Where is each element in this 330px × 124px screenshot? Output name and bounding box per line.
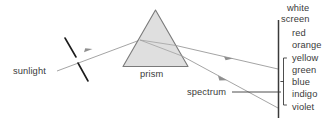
sunlight-label: sunlight: [13, 66, 46, 77]
slit-lower-blade: [78, 63, 88, 81]
exit-ray-upper-arrowhead: [224, 57, 233, 61]
white-screen-label-line1: white: [287, 3, 309, 14]
spectrum-color-list: red orange yellow green blue indigo viol…: [292, 27, 322, 113]
spectrum-color-yellow: yellow: [292, 52, 322, 64]
exit-ray-upper: [176, 46, 278, 70]
incoming-ray-arrowhead: [84, 48, 93, 52]
white-screen-label-line2: screen: [281, 14, 310, 25]
spectrum-color-violet: violet: [292, 101, 322, 113]
exit-ray-lower-arrowhead: [218, 76, 227, 81]
exit-ray-lower: [182, 56, 278, 108]
spectrum-color-red: red: [292, 27, 322, 39]
slit-barrier: [65, 38, 88, 81]
spectrum-label: spectrum: [187, 87, 226, 98]
spectrum-color-indigo: indigo: [292, 88, 322, 100]
spectrum-color-blue: blue: [292, 76, 322, 88]
prism-shape: [123, 10, 188, 67]
prism-dispersion-diagram: sunlight prism spectrum white screen red…: [0, 0, 330, 124]
spectrum-bracket: [281, 58, 287, 105]
spectrum-color-orange: orange: [292, 39, 322, 51]
slit-upper-blade: [65, 38, 76, 57]
prism-label: prism: [140, 69, 163, 80]
spectrum-color-green: green: [292, 64, 322, 76]
